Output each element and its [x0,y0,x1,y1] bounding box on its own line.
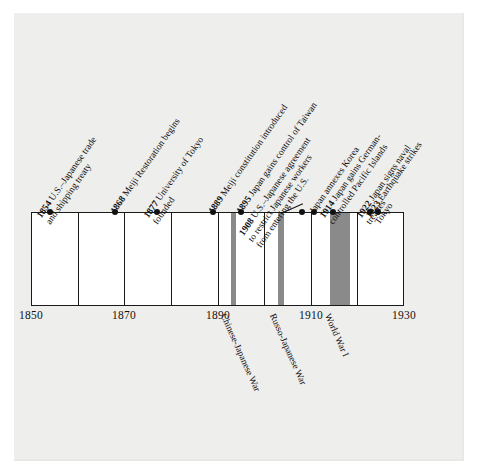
decade-gridline-1880 [171,212,172,306]
decade-gridline-1890 [218,212,219,306]
event-dot-1908 [299,209,305,215]
decade-gridline-1860 [78,212,79,306]
axis-tick-label-1930: 1930 [392,309,416,321]
period-band-world-war-i [330,213,350,305]
decade-gridline-1870 [124,212,125,306]
axis-tick-label-1870: 1870 [112,309,136,321]
axis-tick-label-1910: 1910 [299,309,323,321]
decade-gridline-1910 [311,212,312,306]
decade-gridline-1920 [357,212,358,306]
period-band-chinese-japanese-war [231,213,236,305]
axis-tick-label-1850: 1850 [19,309,43,321]
timeline-figure: 1850 1870 1890 1910 1930 1854 U.S.–Japan… [0,0,479,472]
